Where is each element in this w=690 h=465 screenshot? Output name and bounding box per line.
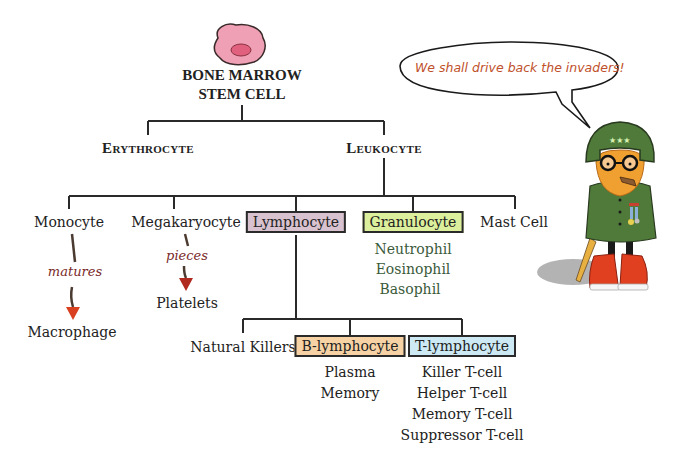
t-type-memory: Memory T-cell (412, 405, 513, 423)
node-t-lymphocyte: T-lymphocyte (408, 335, 516, 357)
root-node: BONE MARROW STEM CELL (182, 66, 302, 104)
speech-bubble (400, 42, 618, 128)
granulocyte-type-neutrophil: Neutrophil (374, 240, 451, 258)
granulocyte-type-basophil: Basophil (379, 280, 440, 298)
verb-pieces: pieces (166, 248, 208, 263)
node-leukocyte: Leukocyte (346, 139, 422, 157)
b-type-memory: Memory (321, 384, 380, 402)
node-macrophage: Macrophage (27, 323, 116, 341)
t-type-helper: Helper T-cell (417, 384, 508, 402)
node-erythrocyte: Erythrocyte (102, 139, 194, 157)
t-type-killer: Killer T-cell (422, 363, 503, 381)
node-platelets: Platelets (156, 294, 218, 312)
node-natural-killers: Natural Killers (190, 338, 295, 356)
verb-matures: matures (48, 264, 102, 279)
stem-cell-icon (215, 24, 266, 64)
svg-text:★★★: ★★★ (609, 136, 631, 145)
root-title-line1: BONE MARROW (182, 66, 302, 85)
b-type-plasma: Plasma (324, 363, 375, 381)
node-megakaryocyte: Megakaryocyte (131, 213, 240, 231)
general-character-illustration: ★★★ (537, 122, 656, 290)
granulocyte-type-eosinophil: Eosinophil (376, 260, 451, 278)
node-b-lymphocyte: B-lymphocyte (294, 335, 405, 357)
t-type-suppressor: Suppressor T-cell (401, 426, 524, 444)
node-monocyte: Monocyte (34, 213, 104, 231)
speech-bubble-text: We shall drive back the invaders! (415, 60, 625, 75)
node-mast-cell: Mast Cell (480, 213, 548, 231)
root-title-line2: STEM CELL (182, 85, 302, 104)
node-lymphocyte: Lymphocyte (246, 211, 346, 233)
node-granulocyte: Granulocyte (363, 211, 464, 233)
